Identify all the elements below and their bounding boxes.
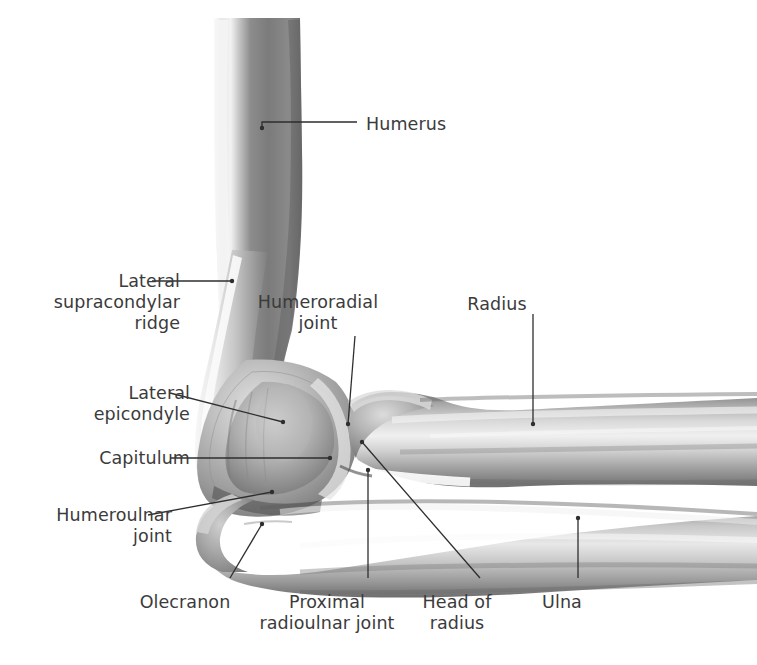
label-lateral-epicondyle: Lateral epicondyle: [0, 383, 190, 425]
label-ulna: Ulna: [492, 592, 632, 613]
leader-ulna-dot: [576, 516, 580, 520]
label-radius: Radius: [427, 294, 567, 315]
label-olecranon: Olecranon: [115, 592, 255, 613]
ulna-bone: [196, 494, 757, 598]
label-humeroulnar-joint: Humeroulnar joint: [0, 505, 172, 547]
label-humerus: Humerus: [366, 114, 446, 135]
leader-humeroradial-joint-dot: [346, 422, 350, 426]
leader-lateral-supracondylar-ridge-dot: [230, 279, 234, 283]
leader-head-of-radius-dot: [360, 440, 364, 444]
label-capitulum: Capitulum: [0, 448, 190, 469]
leader-lateral-epicondyle-dot: [281, 420, 285, 424]
label-humeroradial-joint: Humeroradial joint: [248, 292, 388, 334]
leader-olecranon: [230, 524, 262, 578]
radius-bone: [348, 390, 757, 487]
leader-radius-dot: [531, 422, 535, 426]
label-lateral-supracondylar-ridge: Lateral supracondylar ridge: [0, 271, 180, 334]
leader-proximal-radioulnar-joint-dot: [366, 468, 370, 472]
leader-humerus-dot: [260, 126, 264, 130]
label-proximal-radioulnar-joint: Proximal radioulnar joint: [257, 592, 397, 634]
leader-humeroulnar-joint-dot: [270, 490, 274, 494]
leader-capitulum-dot: [328, 456, 332, 460]
leader-olecranon-dot: [260, 522, 264, 526]
